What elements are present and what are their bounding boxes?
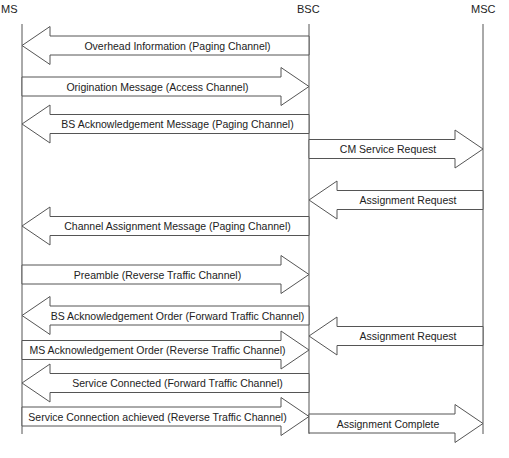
message-label-service-connection-achieved: Service Connection achieved (Reverse Tra… <box>28 411 286 423</box>
message-label-ms-ack-order: MS Acknowledgement Order (Reverse Traffi… <box>30 344 286 356</box>
message-label-service-connected: Service Connected (Forward Traffic Chann… <box>72 377 282 389</box>
entity-label-bsc: BSC <box>297 3 320 15</box>
message-label-cm-service-request: CM Service Request <box>340 143 436 155</box>
entity-label-ms: MS <box>1 3 18 15</box>
message-label-bs-ack-order: BS Acknowledgement Order (Forward Traffi… <box>51 310 305 322</box>
message-label-assignment-request-2: Assignment Request <box>360 330 457 342</box>
message-label-preamble: Preamble (Reverse Traffic Channel) <box>74 269 241 281</box>
message-label-bs-ack-message: BS Acknowledgement Message (Paging Chann… <box>61 118 293 130</box>
message-label-assignment-request-1: Assignment Request <box>360 194 457 206</box>
message-label-channel-assignment-message: Channel Assignment Message (Paging Chann… <box>64 220 290 232</box>
message-label-overhead-information: Overhead Information (Paging Channel) <box>84 40 270 52</box>
message-label-origination-message: Origination Message (Access Channel) <box>66 81 248 93</box>
message-label-assignment-complete: Assignment Complete <box>337 418 440 430</box>
entity-label-msc: MSC <box>471 3 495 15</box>
